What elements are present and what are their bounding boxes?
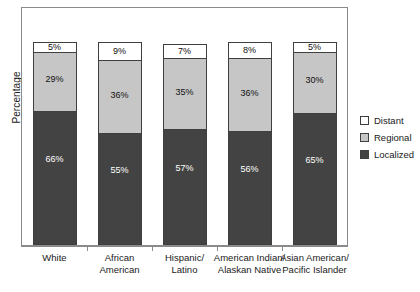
bar-segment-distant[interactable]: 5%: [34, 43, 76, 53]
bar-segment-distant[interactable]: 7%: [164, 45, 206, 59]
bar-segment-value-label: 29%: [45, 75, 63, 84]
y-axis-title: Percentage: [11, 38, 22, 158]
stacked-bar[interactable]: 5%29%66%: [33, 42, 77, 245]
x-axis-tick-label-line: Pacific Islander: [271, 264, 359, 276]
bar-group: 9%36%55%: [98, 42, 142, 245]
bar-group: 7%35%57%: [163, 44, 207, 245]
legend-item-distant[interactable]: Distant: [360, 112, 420, 129]
bar-segment-localized[interactable]: 65%: [294, 114, 336, 245]
bar-segment-distant[interactable]: 9%: [99, 43, 141, 61]
legend-swatch-icon: [360, 116, 369, 125]
bar-group: 8%36%56%: [228, 42, 272, 245]
bar-segment-value-label: 36%: [240, 89, 258, 98]
bar-segment-value-label: 8%: [243, 46, 256, 55]
bar-segment-value-label: 55%: [110, 166, 128, 175]
bar-group: 5%29%66%: [33, 42, 77, 245]
x-axis-tick-label-line: Asian American/: [271, 252, 359, 264]
bar-segment-value-label: 35%: [175, 88, 193, 97]
stacked-bar-chart-figure: Percentage 5%29%66%9%36%55%7%35%57%8%36%…: [0, 0, 420, 292]
bar-segment-value-label: 65%: [305, 156, 323, 165]
bar-segment-value-label: 30%: [305, 76, 323, 85]
bar-segment-localized[interactable]: 66%: [34, 112, 76, 245]
stacked-bar[interactable]: 8%36%56%: [228, 42, 272, 245]
stacked-bar[interactable]: 7%35%57%: [163, 44, 207, 245]
bar-segment-regional[interactable]: 35%: [164, 59, 206, 130]
bar-segment-distant[interactable]: 8%: [229, 43, 271, 59]
legend-item-label: Regional: [374, 132, 412, 143]
x-axis-tick: [87, 247, 88, 251]
bar-segment-localized[interactable]: 57%: [164, 130, 206, 245]
x-axis-line: [21, 246, 348, 247]
legend-item-regional[interactable]: Regional: [360, 129, 420, 146]
chart-legend: DistantRegionalLocalized: [360, 112, 420, 163]
bar-segment-localized[interactable]: 56%: [229, 132, 271, 245]
bar-segment-value-label: 9%: [113, 47, 126, 56]
legend-item-label: Distant: [374, 115, 404, 126]
bar-segment-regional[interactable]: 30%: [294, 53, 336, 114]
bar-segment-localized[interactable]: 55%: [99, 134, 141, 245]
x-axis-tick: [217, 247, 218, 251]
bar-segment-value-label: 57%: [175, 164, 193, 173]
x-axis-tick: [152, 247, 153, 251]
bar-segment-distant[interactable]: 5%: [294, 43, 336, 53]
x-axis-tick: [282, 247, 283, 251]
x-axis-tick-label: Asian American/Pacific Islander: [271, 252, 359, 276]
bar-group: 5%30%65%: [293, 42, 337, 245]
bar-segment-value-label: 7%: [178, 47, 191, 56]
x-axis-tick-labels: WhiteAfricanAmericanHispanic/LatinoAmeri…: [22, 252, 347, 290]
bar-segment-value-label: 66%: [45, 155, 63, 164]
stacked-bar[interactable]: 5%30%65%: [293, 42, 337, 245]
legend-swatch-icon: [360, 150, 369, 159]
bar-segment-value-label: 36%: [110, 91, 128, 100]
legend-swatch-icon: [360, 133, 369, 142]
bar-segment-value-label: 5%: [308, 43, 321, 52]
bar-segment-regional[interactable]: 29%: [34, 53, 76, 112]
stacked-bar[interactable]: 9%36%55%: [98, 42, 142, 245]
bar-segment-value-label: 56%: [240, 165, 258, 174]
bar-segment-regional[interactable]: 36%: [229, 59, 271, 132]
legend-item-label: Localized: [374, 149, 414, 160]
bar-segment-value-label: 5%: [48, 43, 61, 52]
legend-item-localized[interactable]: Localized: [360, 146, 420, 163]
bar-segment-regional[interactable]: 36%: [99, 61, 141, 134]
plot-area: 5%29%66%9%36%55%7%35%57%8%36%56%5%30%65%: [22, 8, 347, 245]
